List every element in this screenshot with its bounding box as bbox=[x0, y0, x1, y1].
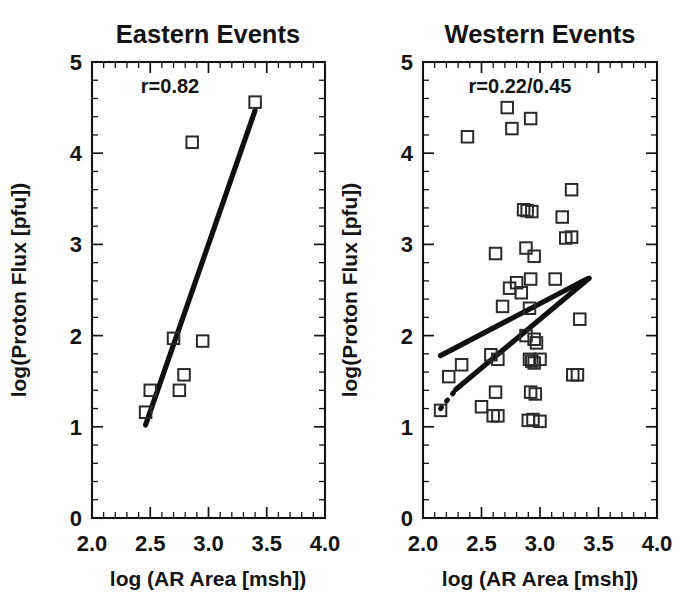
y-tick-label: 2 bbox=[401, 324, 413, 349]
x-tick-label: 4.0 bbox=[642, 531, 673, 556]
data-point-marker bbox=[525, 113, 537, 125]
x-tick-label: 3.0 bbox=[193, 531, 224, 556]
data-point-marker bbox=[490, 386, 502, 398]
x-tick-label: 3.0 bbox=[525, 531, 556, 556]
data-point-marker bbox=[501, 102, 513, 114]
x-tick-label: 2.0 bbox=[408, 531, 439, 556]
y-tick-label: 4 bbox=[401, 141, 414, 166]
data-point-marker bbox=[490, 248, 502, 260]
panel-title-eastern: Eastern Events bbox=[116, 20, 300, 48]
axis-ticks-eastern bbox=[92, 62, 325, 518]
western-regression-steep bbox=[456, 278, 589, 389]
x-axis-title-eastern: log (AR Area [msh]) bbox=[110, 567, 306, 590]
data-point-marker bbox=[566, 184, 578, 196]
eastern-regression bbox=[146, 110, 256, 425]
data-point-marker bbox=[174, 385, 186, 397]
data-point-marker bbox=[497, 301, 509, 313]
data-point-marker bbox=[567, 369, 579, 381]
data-point-marker bbox=[506, 123, 518, 134]
x-axis-title-western: log (AR Area [msh]) bbox=[442, 567, 638, 590]
figure-canvas: Eastern Events r=0.82 2.02.53.03.54.0012… bbox=[0, 0, 681, 602]
plot-frame-eastern bbox=[92, 62, 325, 518]
x-tick-label: 2.0 bbox=[77, 531, 108, 556]
panel-western-svg: Western Events r=0.22/0.45 2.02.53.03.54… bbox=[336, 0, 681, 602]
x-tick-label: 2.5 bbox=[466, 531, 497, 556]
data-point-marker bbox=[556, 211, 568, 223]
x-tick-label: 3.5 bbox=[251, 531, 282, 556]
y-tick-label: 5 bbox=[401, 50, 413, 75]
data-point-marker bbox=[186, 137, 198, 149]
data-point-marker bbox=[487, 410, 499, 422]
y-tick-label: 0 bbox=[401, 506, 413, 531]
y-tick-label: 3 bbox=[401, 232, 413, 257]
tick-labels-eastern: 2.02.53.03.54.0012345 bbox=[70, 50, 341, 556]
data-markers-western bbox=[435, 102, 586, 427]
data-point-marker bbox=[572, 369, 584, 381]
data-point-marker bbox=[549, 273, 561, 285]
y-tick-label: 5 bbox=[70, 50, 82, 75]
data-point-marker bbox=[456, 359, 468, 371]
data-point-marker bbox=[476, 401, 488, 413]
y-tick-label: 1 bbox=[70, 415, 82, 440]
correlation-annotation-western: r=0.22/0.45 bbox=[469, 75, 572, 97]
data-point-marker bbox=[443, 371, 455, 383]
correlation-annotation-eastern: r=0.82 bbox=[141, 75, 199, 97]
data-point-marker bbox=[249, 96, 261, 108]
axis-ticks-western bbox=[423, 62, 657, 518]
data-point-marker bbox=[462, 131, 474, 143]
y-tick-label: 4 bbox=[70, 141, 83, 166]
data-point-marker bbox=[574, 313, 586, 325]
panel-western-events: Western Events r=0.22/0.45 2.02.53.03.54… bbox=[336, 0, 681, 602]
data-point-marker bbox=[197, 335, 209, 347]
data-point-marker bbox=[492, 410, 504, 422]
x-tick-label: 2.5 bbox=[135, 531, 166, 556]
data-point-marker bbox=[178, 369, 190, 381]
y-tick-label: 2 bbox=[70, 324, 82, 349]
y-tick-label: 1 bbox=[401, 415, 413, 440]
plot-frame-western bbox=[423, 62, 657, 518]
data-point-marker bbox=[528, 251, 540, 262]
fit-lines-eastern bbox=[146, 110, 256, 425]
data-point-marker bbox=[525, 273, 537, 285]
y-axis-title-western: log(Proton Flux [pfu]) bbox=[338, 183, 361, 398]
panel-title-western: Western Events bbox=[445, 20, 636, 48]
data-point-marker bbox=[520, 242, 532, 254]
y-tick-label: 3 bbox=[70, 232, 82, 257]
x-tick-label: 3.5 bbox=[583, 531, 614, 556]
y-tick-label: 0 bbox=[70, 506, 82, 531]
panel-eastern-events: Eastern Events r=0.82 2.02.53.03.54.0012… bbox=[0, 0, 345, 602]
y-axis-title-eastern: log(Proton Flux [pfu]) bbox=[7, 183, 30, 398]
panel-eastern-svg: Eastern Events r=0.82 2.02.53.03.54.0012… bbox=[0, 0, 345, 602]
